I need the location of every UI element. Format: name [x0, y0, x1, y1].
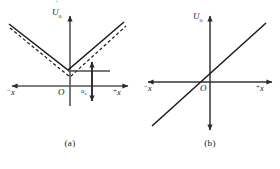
y-axis-sub-b: o [200, 17, 203, 23]
x-axis-left-label-a-text: x [11, 87, 15, 97]
origin-label-b: O [200, 84, 207, 93]
dot-accent-icon: ˙ [55, 1, 58, 9]
annotation-sub-us: s [85, 91, 87, 96]
figure-panel-b: Uo −x +x O (b) [140, 0, 280, 169]
x-axis-right-label-b: +x [256, 84, 264, 93]
plot-area-b: Uo −x +x O [140, 0, 280, 140]
y-axis-label-b: Uo [193, 12, 203, 23]
figure-container: ˙ Uo −x +x O us (a) [0, 0, 280, 169]
caption-a: (a) [0, 138, 140, 148]
plot-area-a: ˙ Uo −x +x O us [0, 0, 140, 140]
caption-b: (b) [140, 138, 280, 148]
x-axis-right-label-b-text: x [260, 83, 264, 93]
x-axis-right-label-a: +x [113, 88, 121, 97]
x-axis-right-label-a-text: x [117, 87, 121, 97]
y-axis-label-a: ˙ Uo [52, 8, 62, 19]
annotation-label-us: us [81, 88, 86, 96]
chart-svg-a [0, 0, 140, 140]
x-axis-left-label-b-text: x [148, 83, 152, 93]
chart-svg-b [140, 0, 280, 140]
series-linear-curve [152, 23, 266, 126]
x-axis-left-label-b: −x [144, 84, 152, 93]
series-solid-v-curve [9, 22, 124, 70]
x-axis-left-label-a: −x [7, 88, 15, 97]
figure-panel-a: ˙ Uo −x +x O us (a) [0, 0, 140, 169]
origin-label-a: O [58, 88, 65, 97]
